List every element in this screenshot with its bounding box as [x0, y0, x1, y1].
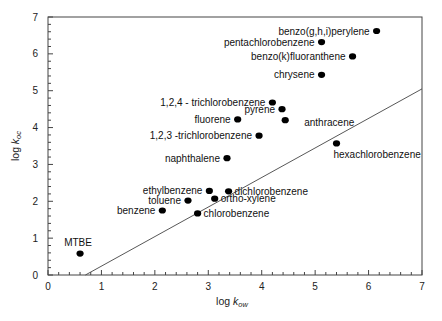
y-tick-label: 7 — [32, 12, 38, 23]
data-points: benzo(g,h,i)perylenepentachlorobenzenebe… — [64, 26, 421, 257]
x-tick-label: 3 — [206, 281, 212, 292]
data-point: benzene — [117, 205, 166, 216]
plot-area — [48, 17, 422, 275]
point-marker — [211, 196, 218, 202]
point-marker — [349, 53, 356, 59]
data-point: benzo(k)fluoranthene — [251, 51, 356, 62]
x-tick-label: 0 — [45, 281, 51, 292]
x-axis-ticks: 01234567 — [45, 270, 425, 292]
point-label: pentachlorobenzene — [224, 37, 315, 48]
point-label: naphthalene — [165, 153, 220, 164]
point-marker — [223, 155, 230, 161]
x-tick-label: 4 — [259, 281, 265, 292]
x-tick-label: 2 — [152, 281, 158, 292]
data-point: hexachlorobenzene — [333, 140, 421, 160]
data-point: pentachlorobenzene — [224, 37, 325, 48]
y-tick-label: 3 — [32, 159, 38, 170]
point-label: anthracene — [304, 117, 354, 128]
point-label: benzo(g,h,i)perylene — [278, 26, 370, 37]
point-label: benzene — [117, 205, 156, 216]
point-marker — [373, 28, 380, 34]
x-tick-label: 1 — [99, 281, 105, 292]
y-tick-label: 0 — [32, 270, 38, 281]
y-axis-ticks: 01234567 — [32, 12, 53, 281]
data-point: MTBE — [64, 237, 92, 257]
data-point: pyrene — [244, 104, 285, 115]
point-marker — [234, 116, 241, 122]
point-label: ortho-xylene — [221, 193, 276, 204]
x-tick-label: 7 — [419, 281, 425, 292]
point-marker — [184, 197, 191, 203]
y-tick-label: 2 — [32, 196, 38, 207]
data-point: benzo(g,h,i)perylene — [278, 26, 380, 37]
point-marker — [318, 39, 325, 45]
point-marker — [194, 210, 201, 216]
point-marker — [206, 188, 213, 194]
point-marker — [278, 106, 285, 112]
x-tick-label: 6 — [366, 281, 372, 292]
scatter-chart: 01234567 01234567 benzo(g,h,i)perylenepe… — [0, 0, 442, 321]
y-axis-title: log koc — [9, 131, 23, 161]
point-label: benzo(k)fluoranthene — [251, 51, 346, 62]
point-label: chlorobenzene — [204, 208, 270, 219]
x-tick-label: 5 — [312, 281, 318, 292]
point-label: pyrene — [244, 104, 275, 115]
point-label: MTBE — [64, 237, 92, 248]
plot-border — [48, 17, 422, 275]
data-point: anthracene — [282, 117, 355, 128]
point-marker — [333, 140, 340, 146]
y-tick-label: 6 — [32, 48, 38, 59]
data-point: fluorene — [195, 114, 242, 125]
point-marker — [76, 251, 83, 257]
point-marker — [159, 207, 166, 213]
data-point: chlorobenzene — [194, 208, 270, 219]
point-label: hexachlorobenzene — [334, 149, 422, 160]
regression-line — [85, 89, 422, 275]
data-point: naphthalene — [165, 153, 231, 164]
x-axis-title: log kow — [216, 295, 248, 309]
point-label: chrysene — [274, 69, 315, 80]
data-point: 1,2,3 -trichlorobenzene — [150, 130, 263, 141]
point-marker — [282, 117, 289, 123]
point-label: fluorene — [195, 114, 232, 125]
data-point: ortho-xylene — [211, 193, 276, 204]
point-marker — [255, 133, 262, 139]
y-tick-label: 4 — [32, 122, 38, 133]
data-point: chrysene — [274, 69, 325, 80]
point-label: 1,2,3 -trichlorobenzene — [150, 130, 253, 141]
point-marker — [318, 72, 325, 78]
y-tick-label: 5 — [32, 85, 38, 96]
y-tick-label: 1 — [32, 233, 38, 244]
